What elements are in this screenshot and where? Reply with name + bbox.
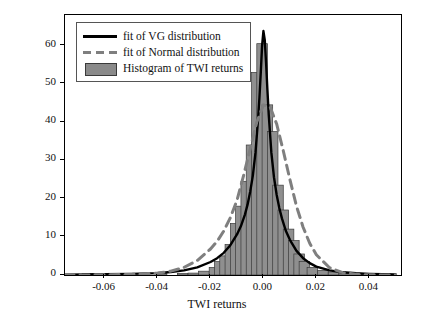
y-tick-mark: [60, 44, 64, 45]
x-tick-mark: [103, 274, 104, 278]
x-tick-mark: [156, 274, 157, 278]
y-tick-mark: [60, 235, 64, 236]
x-tick-mark: [368, 274, 369, 278]
histogram-bar: [199, 271, 210, 275]
legend-label-histogram: Histogram of TWI returns: [123, 62, 243, 74]
y-tick-mark: [60, 121, 64, 122]
figure: fit of VG distribution fit of Normal dis…: [0, 0, 434, 330]
histogram-bar: [307, 267, 318, 275]
x-tick-label: -0.06: [86, 280, 122, 292]
y-tick-mark: [60, 159, 64, 160]
legend-item-normal: fit of Normal distribution: [83, 44, 243, 60]
y-tick-label: 60: [24, 37, 56, 49]
x-axis-label: TWI returns: [0, 297, 434, 312]
y-tick-mark: [60, 274, 64, 275]
legend-label-vg: fit of VG distribution: [123, 30, 221, 42]
y-tick-mark: [60, 197, 64, 198]
y-tick-mark: [60, 82, 64, 83]
histogram-bar: [318, 270, 329, 275]
x-tick-mark: [262, 274, 263, 278]
y-tick-label: 30: [24, 151, 56, 163]
filled-bar-icon: [83, 61, 117, 75]
legend-label-normal: fit of Normal distribution: [123, 46, 240, 58]
x-tick-mark: [315, 274, 316, 278]
x-tick-mark: [209, 274, 210, 278]
legend-item-histogram: Histogram of TWI returns: [83, 60, 243, 76]
y-tick-label: 40: [24, 113, 56, 125]
y-tick-label: 0: [24, 266, 56, 278]
dashed-line-icon: [83, 45, 117, 59]
legend-item-vg: fit of VG distribution: [83, 28, 243, 44]
y-tick-label: 10: [24, 228, 56, 240]
x-tick-label: -0.02: [192, 280, 228, 292]
x-tick-label: -0.04: [139, 280, 175, 292]
histogram-bar: [188, 273, 199, 275]
x-tick-label: 0.04: [350, 280, 386, 292]
y-tick-label: 50: [24, 75, 56, 87]
x-tick-label: 0.02: [297, 280, 333, 292]
y-tick-label: 20: [24, 190, 56, 202]
legend: fit of VG distribution fit of Normal dis…: [76, 22, 251, 82]
histogram-bar: [177, 273, 188, 275]
solid-line-icon: [83, 29, 117, 43]
x-tick-label: 0.00: [244, 280, 280, 292]
